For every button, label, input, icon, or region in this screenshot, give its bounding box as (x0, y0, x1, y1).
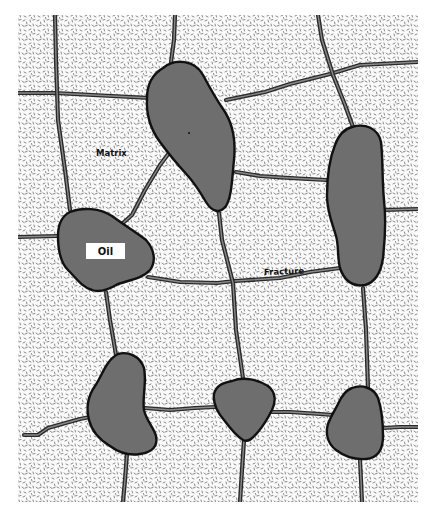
label-fracture-text: Fracture (264, 266, 305, 277)
label-oil: Oil (86, 243, 125, 259)
fracture-h-bottom-mid (145, 407, 215, 410)
fracture-h-left-oil (18, 236, 58, 237)
label-oil-text: Oil (98, 246, 113, 257)
label-matrix-text: Matrix (96, 148, 127, 158)
fractured-reservoir-diagram: Matrix Oil Fracture (0, 0, 434, 517)
label-matrix: Matrix (96, 148, 127, 158)
fracture-h-right-mid (384, 209, 418, 210)
speck-mark (188, 132, 190, 134)
label-fracture: Fracture (264, 266, 305, 277)
fracture-v-bottom-right (360, 460, 362, 502)
fracture-h-bottom-right (383, 427, 418, 428)
